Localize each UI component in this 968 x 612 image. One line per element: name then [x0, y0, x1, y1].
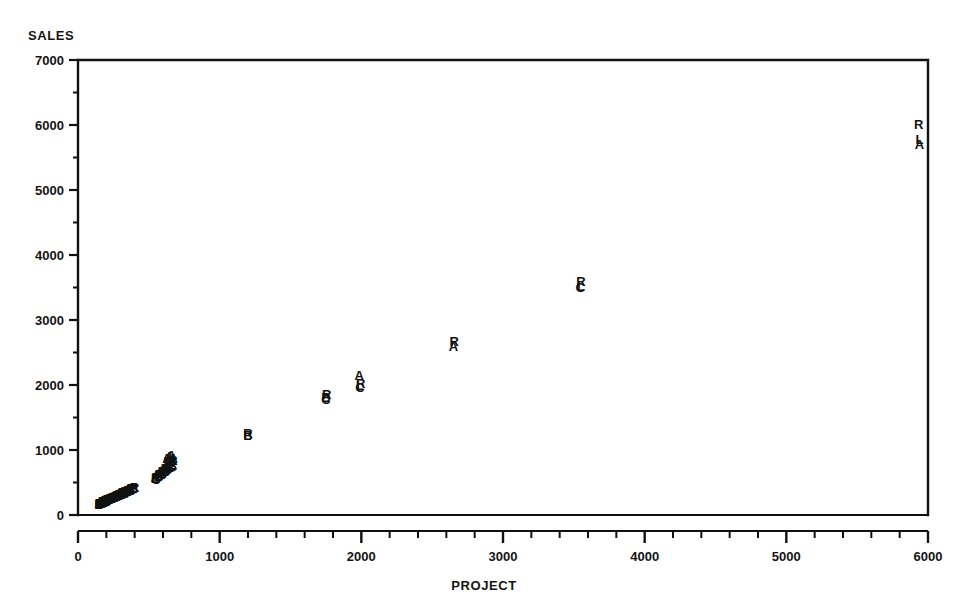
x-tick-label: 3000 — [489, 549, 518, 564]
series-c: CCCCCCCCCCCCCCCCCCCCCCCC — [95, 280, 586, 512]
x-tick-label: 4000 — [630, 549, 659, 564]
data-points-layer: AAAAAAAAAAAAAAAAAAAAAAAAABBBBBBBBBBBBBBB… — [94, 117, 925, 512]
y-tick-label: 0 — [0, 508, 64, 523]
data-point-marker: R — [130, 480, 140, 495]
y-tick-label: 7000 — [0, 53, 64, 68]
data-point-marker: R — [449, 334, 459, 349]
x-tick-label: 5000 — [772, 549, 801, 564]
y-tick-label: 3000 — [0, 313, 64, 328]
data-point-marker: R — [576, 274, 586, 289]
y-tick-label: 4000 — [0, 248, 64, 263]
y-tick-label: 5000 — [0, 183, 64, 198]
x-tick-label: 0 — [74, 549, 81, 564]
data-point-marker: L — [916, 132, 924, 147]
scatter-plot-figure: SALES PROJECT AAAAAAAAAAAAAAAAAAAAAAAAAB… — [0, 0, 968, 612]
data-point-marker: R — [914, 117, 924, 132]
y-axis-ticks — [69, 60, 78, 515]
series-a: AAAAAAAAAAAAAAAAAAAAAAAAA — [95, 137, 925, 511]
data-point-marker: R — [356, 376, 366, 391]
plot-canvas: AAAAAAAAAAAAAAAAAAAAAAAAABBBBBBBBBBBBBBB… — [0, 0, 968, 612]
series-l: LLLLLLLLLLLLLLLLLLLLLLLL — [95, 132, 924, 511]
y-tick-label: 2000 — [0, 378, 64, 393]
x-tick-label: 6000 — [914, 549, 943, 564]
x-axis-ticks — [78, 531, 928, 543]
x-tick-label: 1000 — [205, 549, 234, 564]
x-tick-label: 2000 — [347, 549, 376, 564]
data-point-marker: R — [322, 387, 332, 402]
y-tick-label: 6000 — [0, 118, 64, 133]
plot-frame — [78, 60, 928, 515]
data-point-marker: R — [243, 426, 253, 441]
y-tick-label: 1000 — [0, 443, 64, 458]
series-r: RRRRRRRRRRRRRRRRRRRRRRRRRRR — [95, 117, 924, 510]
data-point-marker: R — [168, 453, 178, 468]
